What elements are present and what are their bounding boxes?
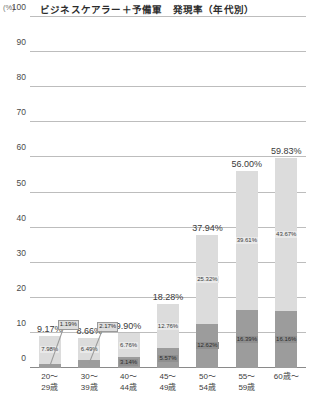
y-axis-tick-label: 40 [17, 213, 26, 223]
bar-segment-reserve[interactable]: 12.76% [157, 304, 179, 349]
chart-root: (%) ビジネスケアラー＋予備軍 発現率（年代別） 01020304050607… [0, 0, 310, 401]
bar-column[interactable]: 9.90%6.76%3.14% [118, 333, 140, 368]
y-axis-tick-label: 80 [17, 72, 26, 82]
bar-segment-reserve[interactable]: 39.61% [236, 171, 258, 310]
category-label-line: 54歳 [187, 382, 227, 393]
bar-total-label: 9.90% [116, 321, 142, 331]
category-label-line: 39歳 [69, 382, 109, 393]
category-label-line: 30～ [69, 371, 109, 382]
y-axis-tick-label: 90 [17, 37, 26, 47]
y-axis-tick-label: 20 [17, 283, 26, 293]
category-label-line: 20～ [30, 371, 70, 382]
segment-value-label: 16.16% [275, 336, 297, 343]
y-axis-tick-label: 0 [21, 353, 26, 363]
segment-value-label: 12.76% [157, 323, 179, 330]
category-label-line: 49歳 [148, 382, 188, 393]
segment-value-label: 5.57% [158, 355, 177, 362]
x-axis-category-label: 40～44歳 [109, 371, 149, 393]
category-label-line: 59歳 [227, 382, 267, 393]
x-axis-category-label: 30～39歳 [69, 371, 109, 393]
segment-value-label: 12.62% [196, 342, 218, 349]
segment-value-label: 43.67% [275, 231, 297, 238]
bar-column[interactable]: 37.94%25.32%12.62% [196, 235, 218, 368]
bar-column[interactable]: 18.28%12.76%5.57% [157, 304, 179, 368]
bar-segment-reserve[interactable]: 43.67% [275, 158, 297, 311]
bar-column[interactable]: 56.00%39.61%16.39% [236, 171, 258, 368]
segment-value-label: 6.76% [119, 342, 138, 349]
segment-value-label: 25.32% [196, 276, 218, 283]
bar-segment-carer[interactable]: 16.39% [236, 310, 258, 368]
plot-area: 0102030405060708090100 9.17%7.98%8.66%6.… [30, 17, 306, 368]
bar-segment-reserve[interactable]: 6.76% [118, 333, 140, 357]
bar-segment-reserve[interactable]: 25.32% [196, 235, 218, 324]
chart-title: ビジネスケアラー＋予備軍 発現率（年代別） [40, 2, 254, 16]
category-label-line: 50～ [187, 371, 227, 382]
category-label-line: 40～ [109, 371, 149, 382]
bar-total-label: 37.94% [192, 223, 223, 233]
segment-callout-label: 1.19% [58, 320, 79, 330]
bar-segment-carer[interactable]: 3.14% [118, 357, 140, 368]
y-axis-tick-label: 70 [17, 107, 26, 117]
bar-segment-carer[interactable]: 5.57% [157, 348, 179, 368]
bar-segment-carer[interactable]: 16.16% [275, 311, 297, 368]
bar-series-group: 9.17%7.98%8.66%6.49%9.90%6.76%3.14%18.28… [30, 17, 306, 368]
bar-total-label: 59.83% [271, 146, 302, 156]
x-axis-category-label: 20～29歳 [30, 371, 70, 393]
x-axis-labels: 20～29歳30～39歳40～44歳45～49歳50～54歳55～59歳60歳～ [30, 371, 306, 401]
y-axis-tick-label: 30 [17, 248, 26, 258]
y-axis-tick-label: 60 [17, 142, 26, 152]
category-label-line: 29歳 [30, 382, 70, 393]
segment-value-label: 39.61% [236, 237, 258, 244]
x-axis-category-label: 55～59歳 [227, 371, 267, 393]
category-label-line: 44歳 [109, 382, 149, 393]
y-axis-tick-label: 10 [17, 318, 26, 328]
category-label-line: 45～ [148, 371, 188, 382]
x-axis-category-label: 45～49歳 [148, 371, 188, 393]
bar-column[interactable]: 59.83%43.67%16.16% [275, 158, 297, 368]
y-axis-tick-label: 50 [17, 178, 26, 188]
x-axis-category-label: 60歳～ [266, 371, 306, 382]
segment-callout-label: 2.17% [97, 322, 118, 332]
bar-total-label: 56.00% [232, 159, 263, 169]
category-label-line: 60歳～ [266, 371, 306, 382]
y-axis-tick-label: 100 [12, 2, 26, 12]
x-axis-category-label: 50～54歳 [187, 371, 227, 393]
bar-segment-carer[interactable]: 12.62% [196, 324, 218, 368]
segment-value-label: 3.14% [119, 359, 138, 366]
bar-total-label: 18.28% [153, 292, 184, 302]
segment-value-label: 16.39% [236, 336, 258, 343]
category-label-line: 55～ [227, 371, 267, 382]
